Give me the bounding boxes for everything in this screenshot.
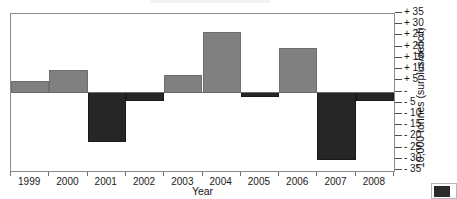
bar-2007 [317, 93, 355, 160]
bar-2002 [126, 93, 164, 102]
bar-2001 [88, 93, 126, 142]
y-axis: + 35+ 30+ 25+ 20+ 15+ 10+ 5-- 5- 10- 15-… [395, 13, 457, 172]
x-axis-title: Year [10, 185, 395, 197]
y-tick-mark [395, 12, 402, 13]
top-crop-artifact [150, 0, 270, 3]
y-tick-mark [395, 57, 402, 58]
y-tick-mark [395, 91, 402, 92]
y-tick-mark [395, 135, 402, 136]
y-axis-title: 10,000 tonnes (surplus/deficit) [414, 27, 426, 168]
chart-figure: + 35+ 30+ 25+ 20+ 15+ 10+ 5-- 5- 10- 15-… [0, 0, 457, 199]
legend [431, 183, 457, 199]
y-tick-mark [395, 102, 402, 103]
bar-2006 [279, 48, 317, 93]
zero-baseline [11, 92, 394, 93]
x-tick-mark [393, 172, 394, 176]
y-tick-mark [395, 147, 402, 148]
y-tick-label: - [404, 85, 407, 96]
bar-1999 [11, 81, 49, 92]
y-tick-mark [395, 23, 402, 24]
plot-area [10, 13, 395, 172]
y-tick-mark [395, 169, 402, 170]
bar-2008 [356, 93, 394, 102]
bar-2000 [49, 70, 87, 92]
y-tick-mark [395, 46, 402, 47]
y-tick-mark [395, 158, 402, 159]
bar-2005 [241, 93, 279, 97]
y-tick-mark [395, 68, 402, 69]
y-tick-label: + 35 [404, 6, 424, 17]
y-tick-mark [395, 79, 402, 80]
bar-2004 [203, 32, 241, 93]
y-tick-mark [395, 113, 402, 114]
y-tick-mark [395, 34, 402, 35]
y-tick-mark [395, 124, 402, 125]
legend-swatch [434, 186, 450, 197]
bar-2003 [164, 75, 202, 93]
